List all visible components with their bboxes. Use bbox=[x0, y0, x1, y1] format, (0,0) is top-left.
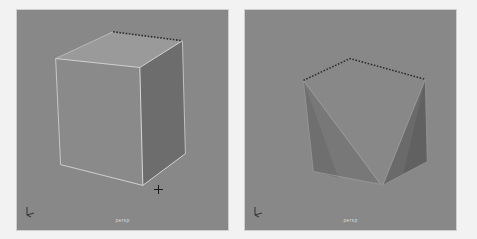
viewport-left-label: persp bbox=[17, 217, 228, 223]
axis-gizmo bbox=[252, 202, 268, 218]
viewport-right[interactable]: persp bbox=[244, 9, 457, 231]
viewport-left[interactable]: persp bbox=[16, 9, 229, 231]
screenshot-root: persp bbox=[0, 0, 477, 239]
viewport-right-scene bbox=[245, 10, 456, 230]
selected-top-back-edge bbox=[303, 59, 425, 81]
viewport-left-scene bbox=[17, 10, 228, 230]
axis-gizmo bbox=[24, 202, 40, 218]
viewport-right-label: persp bbox=[245, 217, 456, 223]
